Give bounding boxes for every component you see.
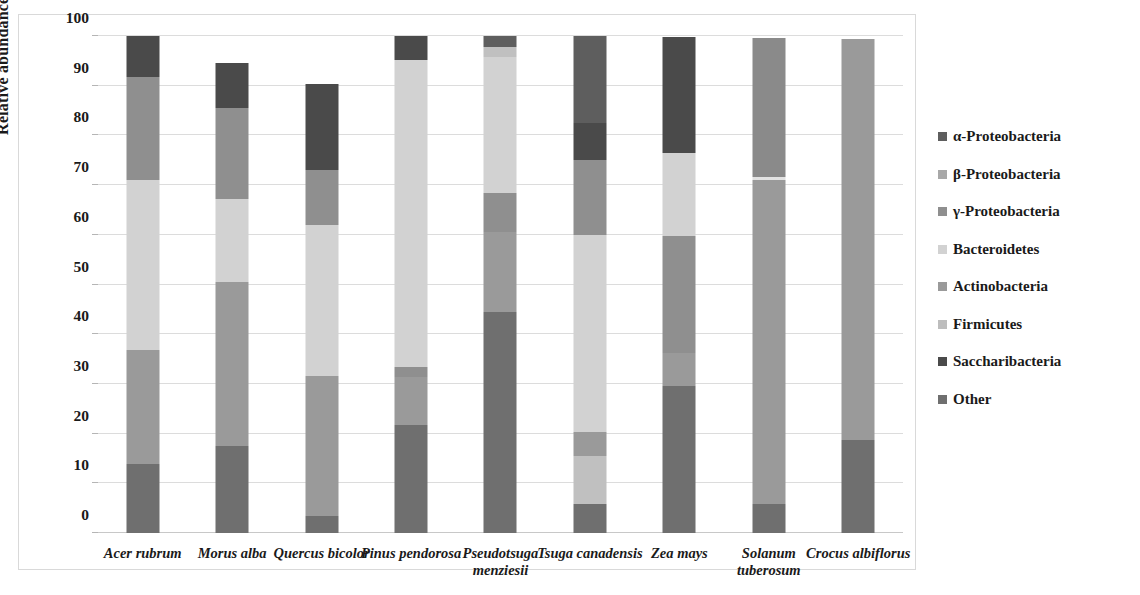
bar-segment[interactable] — [305, 516, 338, 533]
bar-segment[interactable] — [126, 36, 159, 77]
legend-item[interactable]: Saccharibacteria — [938, 343, 1134, 381]
stacked-bar[interactable] — [305, 36, 338, 533]
legend-swatch-icon — [938, 207, 947, 216]
bar-segment[interactable] — [216, 63, 249, 107]
bar-segment[interactable] — [216, 446, 249, 533]
bar-group[interactable]: Solanum tuberosum — [724, 36, 813, 533]
bar-segment[interactable] — [126, 350, 159, 464]
y-axis-tick-label: 10 — [74, 456, 90, 474]
y-axis-tick-label: 20 — [74, 407, 90, 425]
bar-segment[interactable] — [395, 36, 428, 60]
bar-segment[interactable] — [573, 456, 606, 504]
bar-segment[interactable] — [573, 432, 606, 456]
bar-segment[interactable] — [842, 440, 875, 533]
bar-group[interactable]: Pinus pendorosa — [366, 36, 455, 533]
legend-label: Bacteroidetes — [953, 241, 1039, 258]
bar-segment[interactable] — [126, 180, 159, 350]
stacked-bar[interactable] — [573, 36, 606, 533]
bar-group[interactable]: Crocus albiflorus — [814, 36, 903, 533]
bar-segment[interactable] — [573, 160, 606, 235]
bar-group[interactable]: Morus alba — [187, 36, 276, 533]
bar-segment[interactable] — [752, 180, 785, 504]
figure-caption — [26, 583, 1116, 595]
bar-segment[interactable] — [663, 37, 696, 153]
y-axis-tick-label: 30 — [74, 357, 90, 375]
legend-item[interactable]: β-Proteobacteria — [938, 156, 1134, 194]
legend-item[interactable]: γ-Proteobacteria — [938, 193, 1134, 231]
legend-item[interactable]: Firmicutes — [938, 306, 1134, 344]
stacked-bar[interactable] — [395, 36, 428, 533]
legend-label: γ-Proteobacteria — [953, 203, 1060, 220]
bar-segment[interactable] — [305, 225, 338, 377]
bar-segment[interactable] — [663, 153, 696, 236]
bar-segment[interactable] — [395, 425, 428, 533]
bar-segment[interactable] — [752, 38, 785, 177]
bar-group[interactable]: Acer rubrum — [98, 36, 187, 533]
legend-item[interactable]: Actinobacteria — [938, 268, 1134, 306]
x-axis-label: Crocus albiflorus — [800, 545, 916, 562]
stacked-bar[interactable] — [126, 36, 159, 533]
legend-label: Firmicutes — [953, 316, 1022, 333]
bar-segment[interactable] — [216, 199, 249, 282]
bar-group[interactable]: Pseudotsuga menziesii — [456, 36, 545, 533]
legend-item[interactable]: Bacteroidetes — [938, 231, 1134, 269]
bar-segment[interactable] — [573, 123, 606, 160]
bar-segment[interactable] — [752, 504, 785, 533]
bar-group[interactable]: Tsuga canadensis — [545, 36, 634, 533]
legend-item[interactable]: α-Proteobacteria — [938, 118, 1134, 156]
bar-group[interactable]: Quercus bicolor — [277, 36, 366, 533]
bar-segment[interactable] — [395, 60, 428, 367]
legend-label: Actinobacteria — [953, 278, 1048, 295]
chart-plot-area: 0102030405060708090100 Acer rubrumMorus … — [98, 36, 903, 533]
legend-swatch-icon — [938, 245, 947, 254]
bar-segment[interactable] — [663, 236, 696, 353]
bar-group[interactable]: Zea mays — [635, 36, 724, 533]
bar-segment[interactable] — [573, 36, 606, 123]
legend-swatch-icon — [938, 282, 947, 291]
stacked-bar[interactable] — [216, 36, 249, 533]
legend-swatch-icon — [938, 320, 947, 329]
legend-swatch-icon — [938, 357, 947, 366]
bar-segment[interactable] — [842, 39, 875, 441]
legend-item[interactable]: Other — [938, 381, 1134, 419]
bar-segment[interactable] — [484, 193, 517, 233]
figure-stacked-bar-chart: Relative abundance (%) 01020304050607080… — [0, 0, 1140, 595]
y-axis-tick-label: 40 — [74, 307, 90, 325]
bar-segment[interactable] — [573, 504, 606, 533]
legend-swatch-icon — [938, 170, 947, 179]
bar-segment[interactable] — [126, 464, 159, 533]
bar-segment[interactable] — [663, 386, 696, 533]
bar-segment[interactable] — [484, 312, 517, 533]
bar-segment[interactable] — [216, 282, 249, 446]
legend-label: α-Proteobacteria — [953, 128, 1061, 145]
bar-segment[interactable] — [305, 376, 338, 515]
bar-segment[interactable] — [573, 235, 606, 432]
bar-segment[interactable] — [484, 47, 517, 57]
legend-swatch-icon — [938, 132, 947, 141]
stacked-bar[interactable] — [663, 36, 696, 533]
bar-segment[interactable] — [663, 353, 696, 386]
bar-segment[interactable] — [305, 170, 338, 225]
bar-segment[interactable] — [395, 377, 428, 425]
bar-segment[interactable] — [126, 77, 159, 180]
bar-segment[interactable] — [305, 84, 338, 170]
stacked-bar[interactable] — [842, 36, 875, 533]
y-axis-tick-label: 0 — [81, 506, 89, 524]
y-axis-tick-label: 80 — [74, 108, 90, 126]
legend-label: Other — [953, 391, 991, 408]
bar-segment[interactable] — [216, 108, 249, 199]
stacked-bar[interactable] — [484, 36, 517, 533]
y-axis-tick-label: 70 — [74, 158, 90, 176]
chart-legend: α-Proteobacteriaβ-Proteobacteriaγ-Proteo… — [938, 118, 1134, 418]
bar-segment[interactable] — [484, 57, 517, 192]
bar-segment[interactable] — [484, 36, 517, 47]
y-axis-tick-label: 90 — [74, 59, 90, 77]
bar-segment[interactable] — [484, 232, 517, 312]
y-axis-title: Relative abundance (%) — [0, 0, 12, 170]
stacked-bar[interactable] — [752, 36, 785, 533]
y-axis-tick-label: 50 — [74, 258, 90, 276]
bar-segment[interactable] — [395, 367, 428, 377]
bar-segment[interactable] — [752, 177, 785, 180]
legend-label: β-Proteobacteria — [953, 166, 1061, 183]
legend-swatch-icon — [938, 395, 947, 404]
